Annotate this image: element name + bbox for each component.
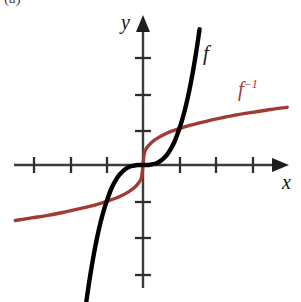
y-axis-label: y bbox=[121, 12, 130, 32]
y-axis-arrowhead bbox=[136, 15, 150, 32]
coordinate-plot bbox=[0, 0, 301, 302]
inverse-function-label: f−1 bbox=[238, 78, 258, 99]
inverse-function-label-exponent: −1 bbox=[244, 77, 258, 91]
inverse-function-figure: (a) y x bbox=[0, 0, 301, 302]
x-axis-arrowhead bbox=[272, 158, 289, 172]
x-axis-label: x bbox=[282, 172, 291, 192]
function-label: f bbox=[203, 43, 209, 64]
